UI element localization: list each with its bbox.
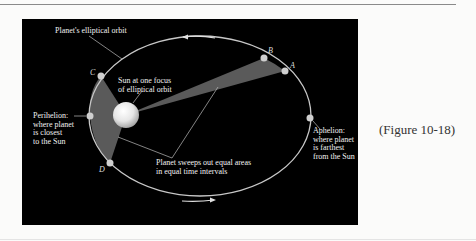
point-a-marker <box>282 68 289 75</box>
arrow-right-icon <box>182 198 216 203</box>
sweep-label: Planet sweeps out equal areas in equal t… <box>156 159 251 176</box>
orbit-leader-line <box>89 36 122 59</box>
perihelion-label-line4: to the Sun <box>33 138 74 147</box>
point-b-marker <box>261 55 268 62</box>
point-d-label: D <box>99 165 105 174</box>
top-rule <box>0 4 456 5</box>
arrow-left-icon <box>182 35 215 40</box>
point-a-label: A <box>290 61 295 70</box>
orbit-label: Planet's elliptical orbit <box>55 27 127 36</box>
aphelion-marker <box>307 115 314 122</box>
point-c-marker <box>98 73 105 80</box>
sun-label-line2: of elliptical orbit <box>118 86 172 95</box>
sweep-label-line2: in equal time intervals <box>156 168 251 177</box>
sun-label: Sun at one focus of elliptical orbit <box>118 77 172 94</box>
aphelion-label: Aphelion: where planet is farthest from … <box>313 127 355 161</box>
kepler-orbit-figure: Planet's elliptical orbit Sun at one foc… <box>22 19 358 225</box>
point-c-label: C <box>90 68 95 77</box>
point-d-marker <box>107 160 114 167</box>
figure-caption: (Figure 10-18) <box>379 122 455 138</box>
perihelion-marker <box>87 113 94 120</box>
perihelion-label: Perihelion: where planet is closest to t… <box>33 112 74 146</box>
bottom-rule <box>0 239 476 240</box>
aphelion-label-line4: from the Sun <box>313 153 355 162</box>
point-b-label: B <box>268 46 273 55</box>
sun-icon <box>113 102 139 128</box>
